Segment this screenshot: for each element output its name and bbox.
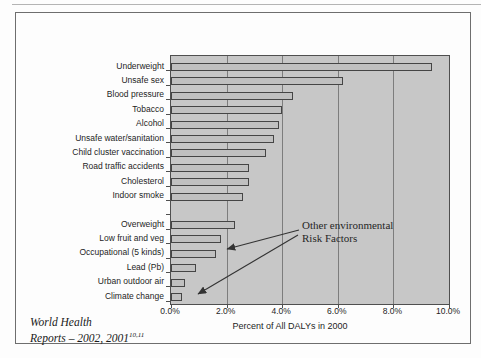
source-note-superscript: 10,11 (129, 331, 144, 339)
y-axis-tick (166, 286, 171, 287)
y-axis-tick (166, 171, 171, 172)
category-label: Occupational (5 kinds) (8, 247, 164, 258)
bar (171, 63, 432, 71)
bar (171, 193, 243, 201)
y-axis-tick (166, 258, 171, 259)
x-tick-label: 0.0% (160, 306, 179, 316)
y-axis-tick (166, 272, 171, 273)
y-axis-tick (166, 243, 171, 244)
y-axis-tick (166, 200, 171, 201)
annotation-line2: Risk Factors (302, 232, 393, 245)
y-axis-tick (166, 214, 171, 215)
bar (171, 250, 216, 258)
y-axis-tick (166, 301, 171, 302)
bar (171, 264, 196, 272)
chart-plot-area (170, 55, 450, 305)
bar (171, 135, 274, 143)
y-axis-tick (166, 70, 171, 71)
source-note-line2: Reports – 2002, 200110,11 (30, 329, 144, 345)
category-label: Low fruit and veg (8, 233, 164, 244)
bar (171, 221, 235, 229)
y-axis-tick (166, 114, 171, 115)
y-axis-tick (166, 99, 171, 100)
category-label: Lead (Pb) (8, 262, 164, 273)
y-axis-tick (166, 229, 171, 230)
bar (171, 235, 221, 243)
x-tick-label: 2.0% (216, 306, 235, 316)
y-axis-category-labels: UnderweightUnsafe sexBlood pressureTobac… (8, 55, 164, 303)
category-label: Overweight (8, 219, 164, 230)
category-label: Urban outdoor air (8, 276, 164, 287)
category-label: Unsafe water/sanitation (8, 133, 164, 144)
gridline (338, 56, 339, 304)
category-label: Unsafe sex (8, 75, 164, 86)
category-label: Tobacco (8, 104, 164, 115)
bar (171, 121, 279, 129)
x-tick-label: 10.0% (436, 306, 460, 316)
scanned-slide: UnderweightUnsafe sexBlood pressureTobac… (0, 0, 481, 358)
category-label: Cholesterol (8, 176, 164, 187)
category-label: Underweight (8, 61, 164, 72)
bar (171, 164, 249, 172)
x-tick-label: 8.0% (383, 306, 402, 316)
bar (171, 279, 185, 287)
y-axis-tick (166, 85, 171, 86)
x-axis-title: Percent of All DALYs in 2000 (170, 321, 448, 331)
category-label: Climate change (8, 291, 164, 302)
bar (171, 106, 282, 114)
category-label: Alcohol (8, 118, 164, 129)
bar (171, 178, 249, 186)
y-axis-tick (166, 186, 171, 187)
bar (171, 293, 182, 301)
category-label: Indoor smoke (8, 190, 164, 201)
annotation-other-environmental: Other environmental Risk Factors (302, 219, 393, 245)
annotation-line1: Other environmental (302, 219, 393, 232)
y-axis-tick (166, 157, 171, 158)
y-axis-tick (166, 142, 171, 143)
category-label: Child cluster vaccination (8, 147, 164, 158)
x-tick-label: 4.0% (272, 306, 291, 316)
scan-artifact-line (12, 4, 481, 5)
category-label: Road traffic accidents (8, 161, 164, 172)
bar (171, 92, 293, 100)
bar (171, 77, 343, 85)
gridline (393, 56, 394, 304)
source-note-line1: World Health (30, 316, 144, 329)
bar (171, 149, 266, 157)
x-axis-tick-labels: 0.0%2.0%4.0%6.0%8.0%10.0% (170, 306, 448, 318)
category-label: Blood pressure (8, 89, 164, 100)
x-tick-label: 6.0% (327, 306, 346, 316)
source-note: World Health Reports – 2002, 200110,11 (30, 316, 144, 345)
y-axis-tick (166, 128, 171, 129)
